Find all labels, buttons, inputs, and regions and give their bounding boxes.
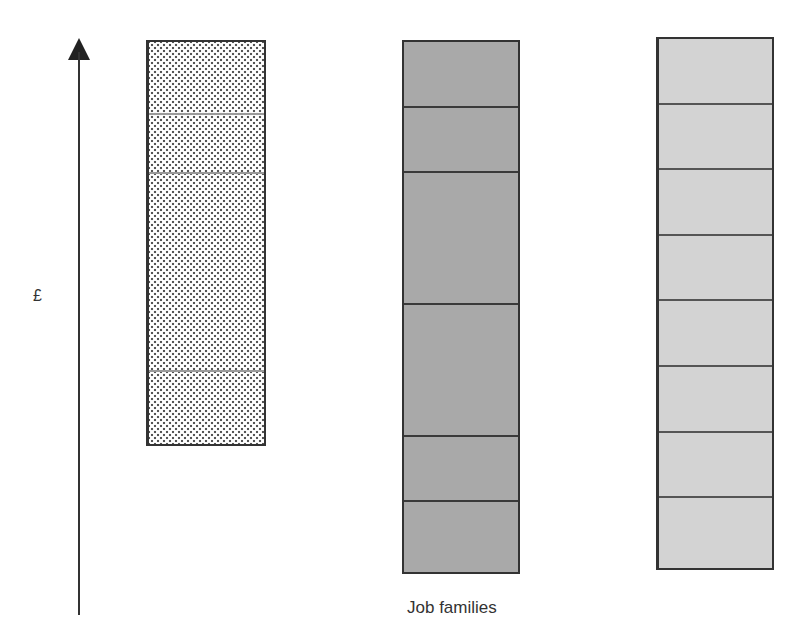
pay-band-divider (404, 500, 518, 502)
job-family-2-bar (402, 40, 520, 574)
pay-band-divider (659, 299, 772, 301)
pay-band-divider (404, 435, 518, 437)
y-axis-label: £ (33, 287, 42, 305)
pay-band-divider (659, 103, 772, 105)
pay-band-divider (659, 234, 772, 236)
x-axis-label: Job families (407, 598, 497, 618)
pay-band-divider (149, 113, 264, 115)
pay-band-divider (149, 172, 264, 174)
pay-band-divider (659, 431, 772, 433)
job-family-3-bar (656, 37, 774, 570)
pay-band-divider (404, 106, 518, 108)
pay-band-divider (659, 168, 772, 170)
job-family-1-bar (146, 40, 266, 446)
pay-band-divider (404, 303, 518, 305)
pay-band-divider (659, 365, 772, 367)
pay-band-divider (659, 496, 772, 498)
pay-band-divider (149, 370, 264, 372)
y-axis-line (78, 52, 80, 615)
pay-band-divider (404, 171, 518, 173)
